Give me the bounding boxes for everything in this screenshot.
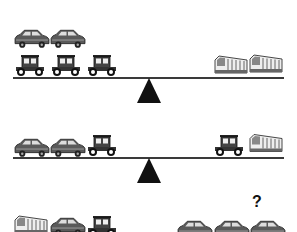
vintage-car-icon <box>14 54 46 77</box>
question-mark: ? <box>252 194 262 210</box>
bus-icon <box>214 55 248 75</box>
modern-car-icon <box>249 219 286 232</box>
bus-icon <box>249 133 283 154</box>
modern-car-icon <box>13 28 50 49</box>
vintage-car-icon <box>86 54 118 77</box>
fulcrum-triangle-icon <box>137 78 161 103</box>
bus-icon <box>249 54 283 74</box>
fulcrum-triangle-icon <box>137 158 161 183</box>
vintage-car-icon <box>86 134 118 157</box>
vintage-car-icon <box>213 134 245 157</box>
bus-icon <box>14 215 48 232</box>
modern-car-icon <box>213 219 250 232</box>
modern-car-icon <box>49 28 86 49</box>
modern-car-icon <box>13 137 50 158</box>
modern-car-icon <box>176 219 213 232</box>
modern-car-icon <box>49 216 86 232</box>
vintage-car-icon <box>86 215 118 232</box>
vintage-car-icon <box>50 54 82 77</box>
modern-car-icon <box>49 137 86 158</box>
